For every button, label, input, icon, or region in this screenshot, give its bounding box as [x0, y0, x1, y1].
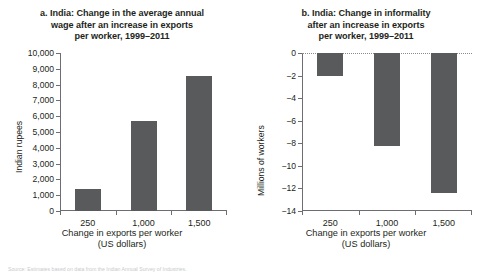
panel-b-y-tick-1 — [298, 76, 302, 77]
panel-b-y-axis-line — [302, 53, 303, 211]
panel-a-plot-area: 01,0002,0003,0004,0005,0006,0007,0008,00… — [60, 53, 227, 211]
panel-a-y-tick-4 — [56, 148, 60, 149]
panel-a-y-tick-6 — [56, 116, 60, 117]
panel-b-title-line-2: after an increase in exports — [254, 20, 478, 32]
panel-b-x-tick-2 — [415, 211, 416, 215]
panel-a-title-line-2: wage after an increase in exports — [10, 20, 234, 32]
panel-a-x-axis-title: Change in exports per worker (US dollars… — [0, 228, 244, 251]
panel-a-y-tick-7 — [56, 100, 60, 101]
panel-a-bar-2 — [186, 76, 212, 211]
panel-a-bar-0 — [75, 189, 101, 211]
panel-b-bar-2 — [431, 53, 457, 193]
panel-a-bar-1 — [131, 121, 157, 211]
panel-a-title-line-3: per worker, 1999–2011 — [10, 31, 234, 43]
panel-a-x-tick-label-2: 1,500 — [188, 218, 211, 228]
panel-a-y-tick-10 — [56, 53, 60, 54]
panel-a-x-axis-title-line-2: (US dollars) — [0, 239, 244, 250]
panel-a-y-tick-label-7: 7,000 — [32, 95, 54, 105]
panel-a-y-tick-label-0: 0 — [49, 206, 54, 216]
panel-a-y-axis-line — [60, 53, 61, 211]
panel-a-x-tick-label-1: 1,000 — [132, 218, 155, 228]
panel-b-y-tick-label-3: −6 — [286, 116, 296, 126]
panel-b-bar-0 — [317, 53, 343, 76]
panel-b-x-tick-0 — [302, 211, 303, 215]
panel-b-y-tick-3 — [298, 121, 302, 122]
panel-a-y-tick-label-4: 4,000 — [32, 143, 54, 153]
panel-b-plot-area: 0−2−4−6−8−10−12−142501,0001,500 — [302, 53, 472, 211]
panel-a-y-tick-label-10: 10,000 — [28, 48, 54, 58]
panel-a-y-tick-label-3: 3,000 — [32, 159, 54, 169]
panel-b-y-tick-label-2: −4 — [286, 93, 296, 103]
panel-a-y-tick-9 — [56, 69, 60, 70]
panel-b-x-tick-label-0: 250 — [323, 218, 338, 228]
panel-b-x-tick-label-2: 1,500 — [432, 218, 455, 228]
panel-b-y-tick-label-7: −14 — [281, 206, 296, 216]
panel-b-y-axis-title: Millions of workers — [256, 125, 266, 196]
panel-b-title-line-3: per worker, 1999–2011 — [254, 31, 478, 43]
panel-a-y-tick-label-1: 1,000 — [32, 190, 54, 200]
panel-b-x-axis-line — [302, 210, 472, 211]
panel-a-x-axis-title-line-1: Change in exports per worker — [0, 228, 244, 239]
panel-a-y-tick-label-5: 5,000 — [32, 127, 54, 137]
panel-b-x-axis-title: Change in exports per worker (US dollars… — [244, 228, 488, 251]
panel-a-x-tick-0 — [60, 211, 61, 215]
panel-a-title: a. India: Change in the average annual w… — [10, 8, 234, 43]
panel-a-y-tick-label-9: 9,000 — [32, 64, 54, 74]
panel-b-y-tick-label-1: −2 — [286, 71, 296, 81]
panel-b-informality-chart: b. India: Change in informality after an… — [244, 0, 488, 273]
panel-a-title-line-1: a. India: Change in the average annual — [10, 8, 234, 20]
panel-b-y-tick-label-6: −12 — [281, 183, 296, 193]
panel-b-y-tick-4 — [298, 143, 302, 144]
panel-b-title-line-1: b. India: Change in informality — [254, 8, 478, 20]
panel-a-y-tick-label-8: 8,000 — [32, 80, 54, 90]
panel-a-x-tick-end — [226, 211, 227, 215]
panel-a-y-tick-3 — [56, 164, 60, 165]
panel-a-y-axis-title: Indian rupees — [14, 121, 24, 173]
figure-two-panel-bar-charts: a. India: Change in the average annual w… — [0, 0, 488, 273]
panel-a-x-tick-label-0: 250 — [80, 218, 95, 228]
panel-b-x-axis-title-line-1: Change in exports per worker — [244, 228, 488, 239]
panel-a-wage-chart: a. India: Change in the average annual w… — [0, 0, 244, 273]
panel-a-y-tick-label-6: 6,000 — [32, 111, 54, 121]
panel-a-y-tick-8 — [56, 85, 60, 86]
panel-b-x-axis-title-line-2: (US dollars) — [244, 239, 488, 250]
panel-a-y-tick-2 — [56, 179, 60, 180]
panel-b-x-tick-end — [471, 211, 472, 215]
panel-b-y-tick-5 — [298, 166, 302, 167]
panel-a-y-tick-label-2: 2,000 — [32, 174, 54, 184]
panel-b-y-tick-label-5: −10 — [281, 161, 296, 171]
panel-a-x-tick-2 — [171, 211, 172, 215]
panel-b-x-tick-label-1: 1,000 — [376, 218, 399, 228]
panel-b-y-tick-label-0: 0 — [291, 48, 296, 58]
panel-b-x-tick-1 — [359, 211, 360, 215]
panel-a-y-tick-5 — [56, 132, 60, 133]
source-note: Source: Estimates based on data from the… — [8, 266, 187, 272]
panel-b-y-tick-6 — [298, 188, 302, 189]
panel-b-y-tick-label-4: −8 — [286, 138, 296, 148]
panel-b-bar-1 — [374, 53, 400, 146]
panel-b-title: b. India: Change in informality after an… — [254, 8, 478, 43]
panel-a-x-tick-1 — [116, 211, 117, 215]
panel-a-y-tick-1 — [56, 195, 60, 196]
panel-b-y-tick-2 — [298, 98, 302, 99]
